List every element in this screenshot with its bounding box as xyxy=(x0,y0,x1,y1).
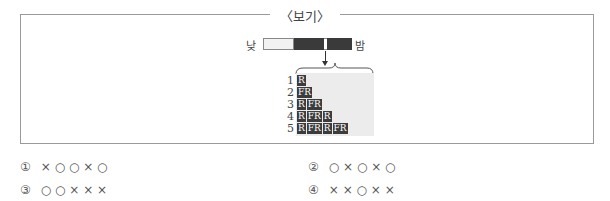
row-number: 5 xyxy=(287,122,297,135)
light-treatment-cell: FR xyxy=(307,111,322,122)
choice-text: ○ ○ × × × xyxy=(41,183,107,197)
treatment-row: 2FR xyxy=(287,86,313,98)
choice-3[interactable]: ③○ ○ × × × xyxy=(20,183,107,197)
treatment-row: 1R xyxy=(287,74,307,86)
choice-1[interactable]: ①× ○ ○ × ○ xyxy=(20,160,108,174)
treatment-row: 4RFRR xyxy=(287,110,333,122)
light-treatment-cell: R xyxy=(323,111,332,122)
choice-text: × ○ ○ × ○ xyxy=(41,160,108,174)
light-treatment-cell: FR xyxy=(307,123,322,134)
example-box-title: 〈보기〉 xyxy=(270,6,340,25)
treatment-row: 3RFR xyxy=(287,98,323,110)
light-treatment-cell: R xyxy=(297,75,306,86)
light-treatment-cell: R xyxy=(323,123,332,134)
light-treatment-cell: FR xyxy=(297,87,312,98)
choice-number: ④ xyxy=(308,183,319,197)
light-treatment-cell: R xyxy=(297,111,306,122)
choice-number: ② xyxy=(308,160,319,174)
light-treatment-cell: FR xyxy=(333,123,348,134)
treatment-row: 5RFRRFR xyxy=(287,122,349,134)
dark-period-segment-2 xyxy=(327,38,352,50)
choice-text: × × ○ × × xyxy=(329,183,395,197)
night-label: 밤 xyxy=(355,37,365,53)
light-treatment-cell: R xyxy=(297,99,306,110)
choice-2[interactable]: ②○ × ○ × ○ xyxy=(308,160,396,174)
choice-text: ○ × ○ × ○ xyxy=(329,160,396,174)
dark-period-segment-1 xyxy=(294,38,324,50)
day-label: 낮 xyxy=(246,37,256,53)
choice-number: ① xyxy=(20,160,31,174)
choice-number: ③ xyxy=(20,183,31,197)
light-period-segment xyxy=(263,38,294,50)
choice-4[interactable]: ④× × ○ × × xyxy=(308,183,395,197)
light-treatment-cell: R xyxy=(297,123,306,134)
light-treatment-cell: FR xyxy=(307,99,322,110)
